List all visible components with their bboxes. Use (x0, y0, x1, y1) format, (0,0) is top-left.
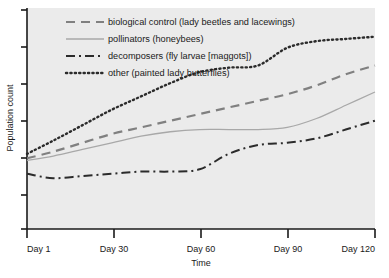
legend-label-2: decomposers (fly larvae [maggots]) (108, 51, 251, 61)
xtick-label-3: Day 90 (274, 244, 303, 254)
xtick-label-1: Day 30 (100, 244, 129, 254)
x-axis-title: Time (191, 258, 211, 268)
legend-label-1: pollinators (honeybees) (108, 34, 204, 44)
xtick-label-0: Day 1 (27, 244, 51, 254)
legend-label-0: biological control (lady beetles and lac… (108, 17, 295, 27)
x-axis-ticks (27, 229, 375, 238)
xtick-label-4: Day 120 (341, 244, 375, 254)
y-axis-title: Population count (5, 84, 15, 152)
legend-label-3: other (painted lady butterflies) (108, 68, 230, 78)
xtick-label-2: Day 60 (187, 244, 216, 254)
population-count-line-chart: Day 1 Day 30 Day 60 Day 90 Day 120 Time … (0, 0, 389, 278)
y-axis-ticks (21, 10, 27, 229)
chart-canvas: Day 1 Day 30 Day 60 Day 90 Day 120 Time … (0, 0, 389, 278)
